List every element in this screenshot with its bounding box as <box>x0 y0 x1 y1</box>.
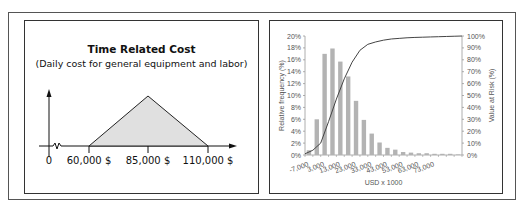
histogram-panel: 0%2%4%6%8%10%12%14%16%18%20%0%10%20%30%4… <box>269 20 503 194</box>
left-axis-tick-label: 4% <box>291 128 301 135</box>
histogram-bar <box>424 153 428 155</box>
histogram-bar <box>417 153 421 155</box>
left-axis-title: Relative frequency (%) <box>278 60 286 131</box>
left-axis-tick-label: 14% <box>287 68 301 75</box>
value-at-risk-line <box>305 36 462 154</box>
right-axis-tick-label: 50% <box>467 92 481 99</box>
x-label-max: 110,000 $ <box>183 155 234 166</box>
frequency-histogram-chart: 0%2%4%6%8%10%12%14%16%18%20%0%10%20%30%4… <box>270 21 504 195</box>
triangular-distribution-diagram <box>25 21 260 195</box>
left-axis-tick-label: 20% <box>287 33 301 40</box>
histogram-bar <box>409 153 413 155</box>
left-axis-tick-label: 0% <box>291 152 301 159</box>
right-axis-tick-label: 20% <box>467 128 481 135</box>
histogram-bar <box>322 54 326 155</box>
histogram-bar <box>338 62 342 155</box>
right-axis-tick-label: 100% <box>467 33 485 40</box>
left-axis-tick-label: 10% <box>287 92 301 99</box>
histogram-bar <box>393 150 397 155</box>
histogram-bar <box>377 143 381 155</box>
histogram-bar <box>456 154 460 155</box>
histogram-bar <box>315 119 319 155</box>
right-axis-tick-label: 70% <box>467 68 481 75</box>
histogram-bar <box>385 148 389 155</box>
right-axis-tick-label: 80% <box>467 56 481 63</box>
left-axis-tick-label: 12% <box>287 80 301 87</box>
histogram-bar <box>370 134 374 155</box>
histogram-bar <box>330 48 334 155</box>
left-axis-tick-label: 6% <box>291 116 301 123</box>
left-axis-tick-label: 8% <box>291 104 301 111</box>
left-axis-tick-label: 16% <box>287 56 301 63</box>
histogram-bar <box>440 154 444 155</box>
x-label-min: 60,000 $ <box>67 155 112 166</box>
right-axis-tick-label: 0% <box>467 152 477 159</box>
right-axis-title: Value at Risk (%) <box>488 69 496 123</box>
left-axis-tick-label: 2% <box>291 140 301 147</box>
right-axis-tick-label: 30% <box>467 116 481 123</box>
histogram-bar <box>362 120 366 155</box>
histogram-bar <box>354 101 358 155</box>
time-related-cost-panel: Time Related Cost (Daily cost for genera… <box>24 20 259 194</box>
x-label-0: 0 <box>46 155 52 166</box>
left-axis-tick-label: 18% <box>287 44 301 51</box>
histogram-bar <box>346 76 350 155</box>
x-label-mode: 85,000 $ <box>126 155 171 166</box>
right-axis-tick-label: 90% <box>467 44 481 51</box>
histogram-bar <box>432 154 436 155</box>
right-axis-tick-label: 10% <box>467 140 481 147</box>
right-axis-tick-label: 60% <box>467 80 481 87</box>
histogram-bar <box>401 152 405 155</box>
histogram-bar <box>448 154 452 155</box>
x-axis-title: USD x 1000 <box>365 179 403 186</box>
right-axis-tick-label: 40% <box>467 104 481 111</box>
